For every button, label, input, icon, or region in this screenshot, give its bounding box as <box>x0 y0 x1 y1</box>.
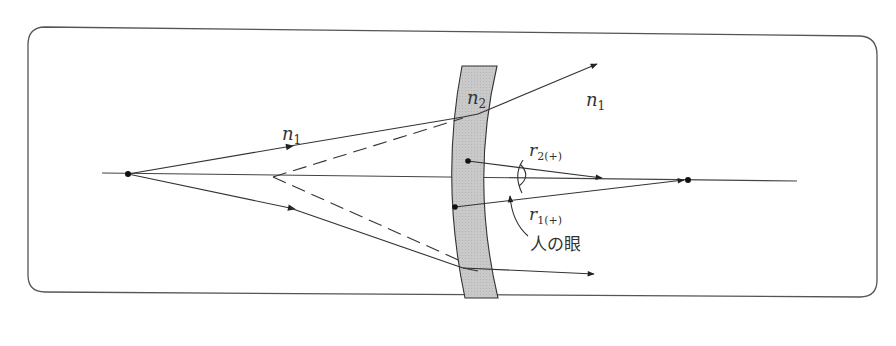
point-source <box>125 171 131 177</box>
ray-diagram: n1 n2 n1 r2(+) r1(+) 人の眼 <box>0 0 896 346</box>
upper-ray <box>128 64 597 174</box>
center-of-curvature-point <box>685 177 691 183</box>
radius-r1-arrow <box>455 180 684 207</box>
upper-dashed-extension <box>273 118 463 177</box>
lower-ray <box>128 174 594 274</box>
label-eye: 人の眼 <box>530 234 581 254</box>
optical-axis <box>102 173 797 181</box>
label-n1-left: n1 <box>282 123 301 147</box>
lower-dashed-extension <box>273 177 463 262</box>
label-r2: r2(+) <box>529 140 562 163</box>
eye-pointer-arrow <box>510 196 528 236</box>
lens-surface-point-r2 <box>465 158 471 164</box>
radius-r2-arrow <box>468 161 602 178</box>
lens-surface-point-r1 <box>452 204 458 210</box>
eye-symbol <box>518 160 526 193</box>
label-n1-right: n1 <box>586 89 605 113</box>
label-r1: r1(+) <box>529 204 562 227</box>
